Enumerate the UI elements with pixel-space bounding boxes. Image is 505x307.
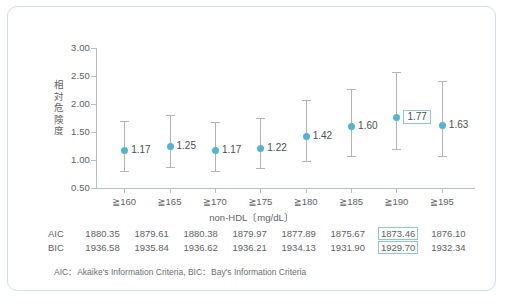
y-tick-label: 0.50 xyxy=(56,182,90,193)
x-tick-mark xyxy=(442,188,443,193)
data-point-label: 1.42 xyxy=(313,130,332,141)
table-cell: 1880.38 xyxy=(176,226,225,240)
table-cell: 1875.67 xyxy=(323,226,372,240)
table-cell: 1935.84 xyxy=(127,240,176,254)
y-tick-mark xyxy=(91,188,97,189)
y-tick-label: 2.50 xyxy=(56,70,90,81)
x-axis-line xyxy=(96,188,475,189)
criteria-table: AIC1880.351879.611880.381879.971877.8918… xyxy=(48,226,473,254)
table-cell: 1936.62 xyxy=(176,240,225,254)
table-cell-highlighted: 1873.46 xyxy=(372,226,424,240)
error-bar-cap-upper xyxy=(438,81,447,82)
error-bar-cap-lower xyxy=(392,149,401,150)
data-point-marker[interactable] xyxy=(167,143,174,150)
data-point-label: 1.60 xyxy=(358,120,377,131)
table-cell: 1876.10 xyxy=(424,226,473,240)
error-bar xyxy=(260,118,261,168)
error-bar-cap-lower xyxy=(211,171,220,172)
x-tick-label: ≧195 xyxy=(415,196,469,207)
y-tick-mark xyxy=(91,104,97,105)
y-tick-mark xyxy=(91,160,97,161)
x-tick-mark xyxy=(124,188,125,193)
error-bar-cap-upper xyxy=(347,89,356,90)
y-tick-mark xyxy=(91,76,97,77)
data-point-marker[interactable] xyxy=(303,133,310,140)
table-row: AIC1880.351879.611880.381879.971877.8918… xyxy=(48,226,473,240)
error-bar-cap-upper xyxy=(302,100,311,101)
error-bar-cap-lower xyxy=(256,168,265,169)
table-cell: 1936.58 xyxy=(78,240,127,254)
error-bar-cap-lower xyxy=(166,167,175,168)
error-bar-cap-lower xyxy=(120,171,129,172)
table-cell: 1934.13 xyxy=(274,240,323,254)
data-point-marker[interactable] xyxy=(393,114,400,121)
x-tick-mark xyxy=(215,188,216,193)
x-tick-mark xyxy=(351,188,352,193)
error-bar xyxy=(306,100,307,161)
data-point-label: 1.22 xyxy=(267,142,286,153)
error-bar-cap-upper xyxy=(166,115,175,116)
table-cell: 1877.89 xyxy=(274,226,323,240)
data-point-label-highlighted: 1.77 xyxy=(403,110,430,124)
table-cell: 1879.97 xyxy=(225,226,274,240)
y-tick-mark xyxy=(91,132,97,133)
table-row-header: AIC xyxy=(48,226,78,240)
data-point-marker[interactable] xyxy=(212,147,219,154)
error-bar-cap-upper xyxy=(256,118,265,119)
error-bar xyxy=(124,121,125,170)
error-bar-cap-upper xyxy=(392,72,401,73)
data-point-label: 1.63 xyxy=(449,119,468,130)
y-tick-mark xyxy=(91,48,97,49)
y-tick-label: 1.00 xyxy=(56,154,90,165)
data-point-marker[interactable] xyxy=(121,147,128,154)
error-bar xyxy=(170,115,171,167)
y-tick-label: 2.00 xyxy=(56,98,90,109)
table-cell: 1879.61 xyxy=(127,226,176,240)
error-bar xyxy=(396,72,397,150)
error-bar-cap-upper xyxy=(211,122,220,123)
table-row: BIC1936.581935.841936.621936.211934.1319… xyxy=(48,240,473,254)
table-row-header: BIC xyxy=(48,240,78,254)
data-point-label: 1.17 xyxy=(222,144,241,155)
y-tick-label: 1.50 xyxy=(56,126,90,137)
x-tick-mark xyxy=(396,188,397,193)
x-axis-title: non-HDL〔mg/dL〕 xyxy=(8,210,495,224)
error-bar xyxy=(215,122,216,171)
data-point-marker[interactable] xyxy=(257,145,264,152)
table-cell: 1880.35 xyxy=(78,226,127,240)
data-point-marker[interactable] xyxy=(348,123,355,130)
error-bar-cap-lower xyxy=(347,156,356,157)
footnote: AIC：Akaike's Information Criteria, BIC：B… xyxy=(54,265,306,277)
error-bar-cap-lower xyxy=(438,156,447,157)
x-tick-mark xyxy=(170,188,171,193)
table-cell: 1936.21 xyxy=(225,240,274,254)
data-point-label: 1.25 xyxy=(177,140,196,151)
data-point-marker[interactable] xyxy=(439,122,446,129)
chart-card: 相対危険度 3.002.502.001.501.000.50 ≧160≧165≧… xyxy=(7,6,496,291)
error-bar xyxy=(442,81,443,156)
error-bar-cap-lower xyxy=(302,161,311,162)
error-bar-cap-upper xyxy=(120,121,129,122)
x-tick-mark xyxy=(260,188,261,193)
table-cell: 1931.90 xyxy=(323,240,372,254)
table-cell: 1932.34 xyxy=(424,240,473,254)
table-cell-highlighted: 1929.70 xyxy=(372,240,424,254)
data-point-label: 1.17 xyxy=(131,144,150,155)
y-axis-line xyxy=(96,48,97,189)
x-tick-mark xyxy=(306,188,307,193)
y-tick-label: 3.00 xyxy=(56,42,90,53)
